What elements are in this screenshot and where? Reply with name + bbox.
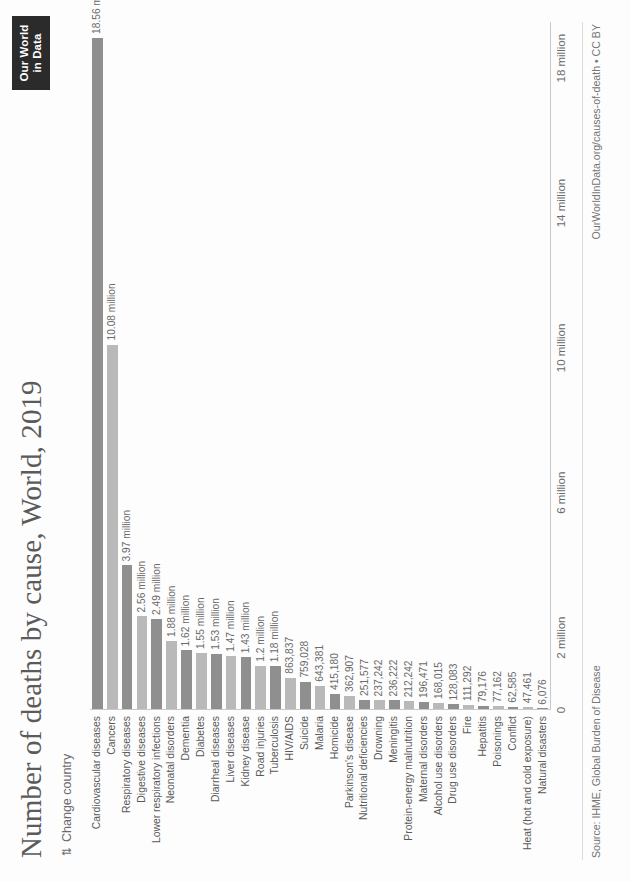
bar-row[interactable]: Cancers10.08 million bbox=[105, 22, 120, 860]
source-note: Source: IHME, Global Burden of Disease bbox=[590, 665, 602, 858]
bar[interactable] bbox=[196, 653, 207, 709]
bar-cell: 79,176 bbox=[476, 22, 491, 710]
axis-tick-label: 2 million bbox=[555, 617, 567, 659]
bar-category-label: Suicide bbox=[300, 710, 310, 860]
bar-row[interactable]: Nutritional deficiencies251,577 bbox=[357, 22, 372, 860]
bar[interactable] bbox=[493, 706, 504, 709]
bar[interactable] bbox=[463, 705, 474, 709]
bar[interactable] bbox=[389, 700, 400, 709]
bar-category-label: Respiratory diseases bbox=[122, 710, 132, 860]
bar-row[interactable]: Tuberculosis1.18 million bbox=[268, 22, 283, 860]
bar-row[interactable]: HIV/AIDS863,837 bbox=[283, 22, 298, 860]
bar-row[interactable]: Homicide415,180 bbox=[328, 22, 343, 860]
bar-cell: 212,242 bbox=[402, 22, 417, 710]
bar-row[interactable]: Conflict62,585 bbox=[506, 22, 521, 860]
bar[interactable] bbox=[315, 686, 326, 709]
bar-value-label: 251,577 bbox=[360, 659, 370, 696]
bar-cell: 643,381 bbox=[313, 22, 328, 710]
bar[interactable] bbox=[270, 666, 281, 709]
bar[interactable] bbox=[344, 696, 355, 709]
bar[interactable] bbox=[107, 345, 118, 709]
bar-category-label: Conflict bbox=[508, 710, 518, 860]
bar[interactable] bbox=[330, 694, 341, 709]
bar-category-label: Homicide bbox=[330, 710, 340, 860]
bar-value-label: 79,176 bbox=[478, 671, 488, 702]
bar-category-label: Fire bbox=[463, 710, 473, 860]
bar-value-label: 1.53 million bbox=[211, 598, 221, 650]
bar-category-label: Meningitis bbox=[389, 710, 399, 860]
bar-row[interactable]: Malaria643,381 bbox=[313, 22, 328, 860]
bar-row[interactable]: Meningitis236,222 bbox=[387, 22, 402, 860]
bar[interactable] bbox=[508, 707, 519, 709]
bar-row[interactable]: Drowning237,242 bbox=[372, 22, 387, 860]
bar[interactable] bbox=[419, 702, 430, 709]
bar[interactable] bbox=[226, 656, 237, 709]
bar-row[interactable]: Suicide759,028 bbox=[298, 22, 313, 860]
bar[interactable] bbox=[255, 666, 266, 709]
bar-row[interactable]: Maternal disorders196,471 bbox=[417, 22, 432, 860]
bar[interactable] bbox=[181, 650, 192, 709]
bar[interactable] bbox=[478, 706, 489, 709]
owid-logo[interactable]: Our World in Data bbox=[12, 16, 50, 90]
bar-row[interactable]: Digestive diseases2.56 million bbox=[135, 22, 150, 860]
bar-row[interactable]: Liver diseases1.47 million bbox=[224, 22, 239, 860]
bar-row[interactable]: Road injuries1.2 million bbox=[253, 22, 268, 860]
axis-tick-label: 14 million bbox=[555, 179, 567, 228]
bar-cell: 1.88 million bbox=[164, 22, 179, 710]
bar-cell: 6,076 bbox=[535, 22, 550, 710]
bar[interactable] bbox=[285, 678, 296, 709]
bar-row[interactable]: Hepatitis79,176 bbox=[476, 22, 491, 860]
bar-cell: 251,577 bbox=[357, 22, 372, 710]
bar-cell: 1.53 million bbox=[209, 22, 224, 710]
bar-category-label: Cardiovascular diseases bbox=[92, 710, 102, 860]
bar[interactable] bbox=[211, 654, 222, 709]
bar-cell: 415,180 bbox=[328, 22, 343, 710]
bar-row[interactable]: Respiratory diseases3.97 million bbox=[120, 22, 135, 860]
bar[interactable] bbox=[448, 704, 459, 709]
owid-logo-line1: Our World bbox=[18, 25, 31, 82]
bar-row[interactable]: Lower respiratory infections2.49 million bbox=[149, 22, 164, 860]
credit-note[interactable]: OurWorldInData.org/causes-of-death • CC … bbox=[590, 24, 602, 239]
change-country-button[interactable]: ⇅ Change country bbox=[60, 22, 74, 857]
bar-cell: 3.97 million bbox=[120, 22, 135, 710]
bar-cell: 237,242 bbox=[372, 22, 387, 710]
bar-row[interactable]: Diarrheal diseases1.53 million bbox=[209, 22, 224, 860]
x-axis: 02 million6 million10 million14 million1… bbox=[550, 22, 576, 710]
bar-row[interactable]: Dementia1.62 million bbox=[179, 22, 194, 860]
bar-value-label: 759,028 bbox=[300, 641, 310, 678]
bar[interactable] bbox=[433, 703, 444, 709]
bar[interactable] bbox=[374, 700, 385, 709]
bar-category-label: Dementia bbox=[181, 710, 191, 860]
bar[interactable] bbox=[241, 657, 252, 709]
bar-category-label: Diarrheal diseases bbox=[211, 710, 221, 860]
bar-row[interactable]: Drug use disorders128,083 bbox=[446, 22, 461, 860]
bar-row[interactable]: Heat (hot and cold exposure)47,461 bbox=[520, 22, 535, 860]
bar-value-label: 362,907 bbox=[345, 655, 355, 692]
bar-row[interactable]: Poisonings77,162 bbox=[491, 22, 506, 860]
bar-row[interactable]: Fire111,292 bbox=[461, 22, 476, 860]
change-country-label: Change country bbox=[60, 754, 74, 842]
bar[interactable] bbox=[523, 707, 534, 709]
bar[interactable] bbox=[137, 616, 148, 709]
bar[interactable] bbox=[359, 700, 370, 709]
bar-row[interactable]: Alcohol use disorders168,015 bbox=[431, 22, 446, 860]
bar-category-label: Drowning bbox=[374, 710, 384, 860]
bar[interactable] bbox=[404, 701, 415, 709]
bar-row[interactable]: Cardiovascular diseases18.56 million bbox=[90, 22, 105, 860]
bar[interactable] bbox=[300, 682, 311, 709]
bar-row[interactable]: Protein-energy malnutrition212,242 bbox=[402, 22, 417, 860]
bar-row[interactable]: Natural disasters6,076 bbox=[535, 22, 550, 860]
bar-row[interactable]: Diabetes1.55 million bbox=[194, 22, 209, 860]
bar-cell: 1.47 million bbox=[224, 22, 239, 710]
bar[interactable] bbox=[92, 38, 103, 709]
bar-cell: 1.43 million bbox=[238, 22, 253, 710]
bar[interactable] bbox=[151, 619, 162, 709]
bar-category-label: Nutritional deficiencies bbox=[359, 710, 369, 860]
swap-vertical-icon: ⇅ bbox=[61, 848, 73, 857]
bar-value-label: 2.49 million bbox=[152, 563, 162, 615]
bar[interactable] bbox=[122, 565, 133, 709]
bar-row[interactable]: Kidney disease1.43 million bbox=[238, 22, 253, 860]
bar[interactable] bbox=[166, 641, 177, 709]
bar-row[interactable]: Parkinson's disease362,907 bbox=[342, 22, 357, 860]
bar-row[interactable]: Neonatal disorders1.88 million bbox=[164, 22, 179, 860]
